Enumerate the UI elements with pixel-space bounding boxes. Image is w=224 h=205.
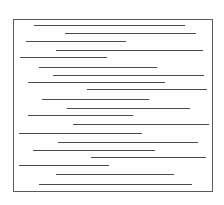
- horizontal-line: [20, 57, 107, 58]
- horizontal-line: [19, 133, 142, 134]
- horizontal-line: [26, 41, 126, 42]
- diagram-frame: [13, 19, 213, 192]
- horizontal-line: [34, 25, 185, 26]
- horizontal-line: [19, 165, 109, 166]
- horizontal-line: [42, 99, 149, 100]
- horizontal-line: [56, 50, 203, 51]
- horizontal-line: [39, 184, 192, 185]
- horizontal-line: [33, 150, 155, 151]
- horizontal-line: [28, 82, 165, 83]
- horizontal-line: [67, 108, 190, 109]
- horizontal-line: [56, 174, 174, 175]
- horizontal-line: [65, 33, 196, 34]
- horizontal-line: [39, 67, 157, 68]
- horizontal-line: [91, 157, 206, 158]
- horizontal-line: [58, 142, 198, 143]
- horizontal-line: [28, 115, 133, 116]
- horizontal-line: [73, 124, 209, 125]
- horizontal-line: [87, 89, 207, 90]
- horizontal-line: [53, 75, 204, 76]
